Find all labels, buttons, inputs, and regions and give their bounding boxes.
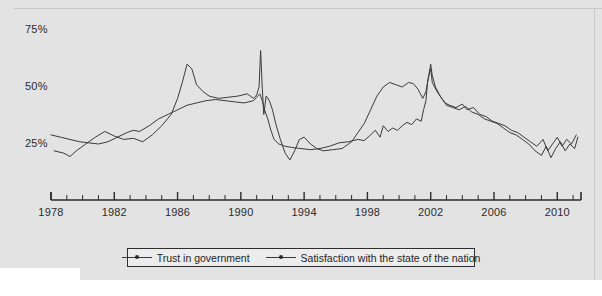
y-axis-label-25: 25% [25,137,48,149]
legend-line-marker-icon [122,253,152,262]
legend-line-marker-icon [266,253,296,262]
x-axis-label-2002: 2002 [418,206,443,218]
chart-legend: Trust in government Satisfaction with th… [127,248,475,267]
x-axis-label-1994: 1994 [291,206,316,218]
legend-entry-satisfaction-with-the-state-of-the-nation: Satisfaction with the state of the natio… [266,252,481,264]
x-axis-label-1990: 1990 [228,206,253,218]
x-axis-label-1998: 1998 [355,206,380,218]
x-axis-label-2010: 2010 [545,206,570,218]
page-bottom-margin [0,280,602,296]
legend-label-satisfaction-with-the-state-of-the-nation: Satisfaction with the state of the natio… [301,252,481,264]
series-layer [51,51,578,160]
legend-label-trust-in-government: Trust in government [157,252,250,264]
series-line-1 [51,64,576,151]
chart-page: 75% 50% 25% 1978 1982 1986 1990 1994 199… [0,0,602,296]
y-axis-label-50: 50% [25,80,48,92]
legend-entry-trust-in-government: Trust in government [122,252,250,264]
x-axis [51,192,581,200]
x-axis-label-1986: 1986 [165,206,190,218]
x-axis-label-1978: 1978 [38,206,63,218]
x-axis-label-1982: 1982 [102,206,127,218]
series-line-2 [54,51,578,160]
x-axis-label-2006: 2006 [481,206,506,218]
y-axis-label-75: 75% [25,23,48,35]
